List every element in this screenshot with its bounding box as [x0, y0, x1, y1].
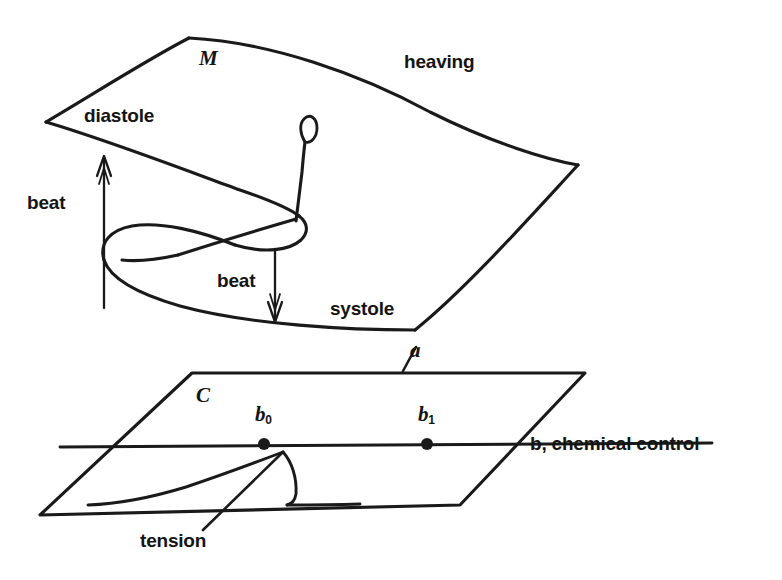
manifold-fold-upper-edge — [46, 122, 299, 216]
diagram-canvas — [0, 0, 782, 580]
b0-subscript: 0 — [265, 413, 271, 427]
bifurcation-lower-branch — [88, 452, 283, 505]
bifurcation-right-arc — [287, 504, 360, 505]
manifold-pleat-crease-lower — [122, 255, 178, 261]
beat-up-label: beat — [27, 193, 65, 212]
manifold-cusp-loop — [301, 116, 317, 142]
heartbeat-catastrophe-figure: M heaving diastole systole beat beat a C… — [0, 0, 782, 580]
manifold-edge-right — [415, 165, 578, 330]
diastole-label: diastole — [84, 106, 154, 125]
heaving-label: heaving — [404, 52, 474, 71]
b0-label: b0 — [255, 404, 272, 425]
b-axis-label: b, chemical control — [530, 434, 699, 453]
beat-down-label: beat — [217, 271, 255, 290]
b1-label: b1 — [418, 404, 435, 425]
manifold-cusp-tail — [296, 142, 305, 221]
bifurcation-upper-branch — [283, 452, 296, 505]
manifold-edge-systole-front — [104, 260, 415, 330]
a-axis-label: a — [410, 340, 421, 361]
b0-base: b — [255, 402, 265, 426]
tension-leader-line — [203, 452, 283, 530]
manifold-edge-heaving-top — [189, 38, 578, 165]
b1-base: b — [418, 402, 428, 426]
control-plane-label: C — [196, 385, 210, 406]
b1-subscript: 1 — [428, 413, 434, 427]
tension-label: tension — [140, 531, 206, 550]
systole-label: systole — [330, 299, 394, 318]
manifold-label: M — [199, 48, 218, 69]
